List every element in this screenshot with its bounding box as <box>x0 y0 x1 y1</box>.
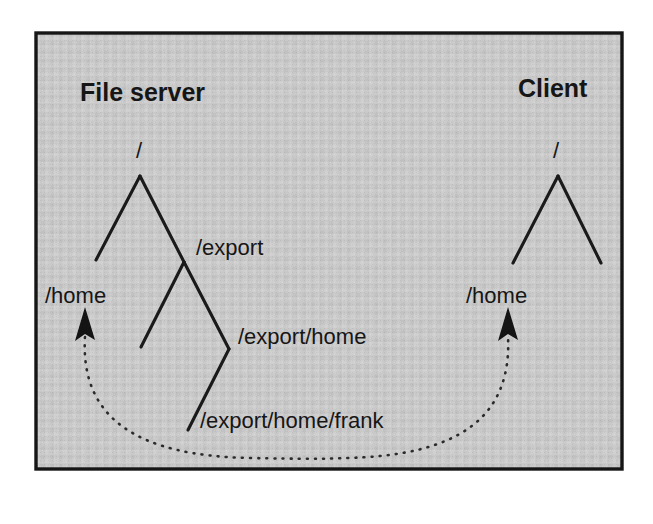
server-label-export-home-frank: /export/home/frank <box>200 408 384 433</box>
server-label-export-home: /export/home <box>238 324 366 349</box>
diagram-canvas: File server / /home /export /export/home <box>0 0 653 524</box>
figure-root: File server / /home /export /export/home <box>0 0 653 524</box>
client-root-slash-label: / <box>553 138 560 163</box>
server-label-home: /home <box>45 283 106 308</box>
client-title: Client <box>518 74 588 102</box>
file-server-title: File server <box>80 78 205 106</box>
server-label-export: /export <box>196 235 263 260</box>
server-root-slash-label: / <box>136 138 143 163</box>
client-label-home: /home <box>466 283 527 308</box>
